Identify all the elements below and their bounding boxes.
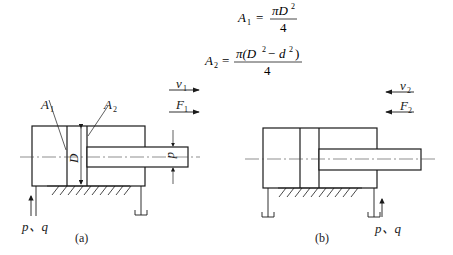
label-A1: A (40, 97, 49, 112)
formula-a1-lhs: A (237, 10, 246, 25)
formula-a2-num-pre: π(D (236, 46, 257, 61)
formula-a2-lhs: A (204, 53, 213, 68)
label-D: D (66, 153, 81, 164)
label-A2-sub: 2 (113, 105, 117, 114)
formula-a1-lhs-sub: 1 (247, 18, 251, 27)
formula-a2: A 2 = π(D 2 − d 2 ) 4 (204, 45, 302, 78)
label-F1-sub: 1 (184, 105, 188, 114)
formula-a2-num-post: ) (295, 46, 299, 61)
formula-a1-den: 4 (280, 20, 287, 35)
formula-a1-num-sup: 2 (291, 2, 295, 11)
formula-a1-eq: = (256, 10, 263, 25)
label-A1-sub: 1 (50, 105, 54, 114)
label-v1: v (176, 76, 182, 91)
label-d: d (165, 152, 180, 159)
formula-a2-num-sup2: 2 (289, 45, 293, 54)
formula-a2-num-mid: − d (267, 46, 286, 61)
ground-hatch-a-icon (52, 186, 131, 195)
formula-a1-num: πD (272, 3, 289, 18)
label-F2-sub: 2 (408, 106, 412, 115)
hydraulic-cylinder-diagram: A 1 = πD 2 4 A 2 = π(D 2 − d 2 ) 4 (0, 0, 453, 255)
inlet-label-a: p、q (21, 219, 49, 234)
caption-b: (b) (315, 231, 329, 245)
label-v2: v (400, 78, 406, 93)
label-v2-sub: 2 (407, 86, 411, 95)
caption-a: (a) (75, 231, 88, 245)
label-A2: A (103, 97, 112, 112)
formula-a2-num-sup1: 2 (262, 45, 266, 54)
inlet-label-b: p、q (374, 221, 402, 236)
formula-a2-den: 4 (264, 63, 271, 78)
formula-a2-eq: = (222, 53, 229, 68)
formula-a1: A 1 = πD 2 4 (237, 2, 297, 35)
label-v1-sub: 1 (183, 84, 187, 93)
ground-hatch-b-icon (279, 188, 358, 197)
formula-a2-lhs-sub: 2 (214, 61, 218, 70)
piston-rod-b (319, 149, 421, 170)
